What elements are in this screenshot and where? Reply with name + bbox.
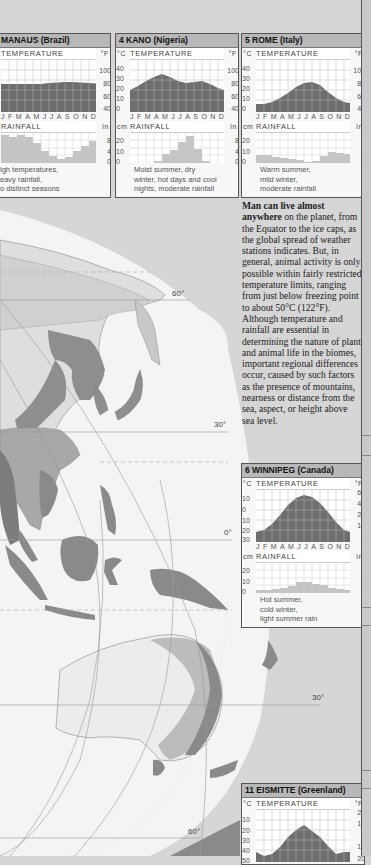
temperature-header: °C TEMPERATURE °F: [256, 798, 350, 810]
temperature-plot: 40 30 20 10 0 100 80 60 40: [256, 60, 350, 112]
rainfall-plot: 20 10 0 8 4 0: [256, 133, 350, 163]
temperature-plot: 40 30 20 10 0 100 80 60 40: [130, 60, 224, 112]
climate-chart-manaus: MANAUS (Brazil) TEMPERATURE °F 100 80 60…: [0, 33, 111, 198]
temperature-plot: 10 0 10 20 30 60 40 20 10 0: [256, 490, 350, 542]
latitude-label: 30°: [214, 420, 226, 429]
article-body: on the planet, from the Equator to the i…: [242, 211, 362, 425]
climate-chart-rome: 5 ROME (Italy) °C TEMPERATURE °F 40 30 2…: [241, 33, 365, 198]
latitude-label: 60°: [172, 289, 184, 298]
rainfall-plot: 20 10 0 8 4 0: [256, 563, 350, 593]
temperature-header: °C TEMPERATURE °F: [130, 48, 224, 60]
latitude-label: 60°: [188, 827, 200, 836]
chart-title: MANAUS (Brazil): [0, 34, 110, 48]
rainfall-header: cm RAINFALL in: [256, 551, 350, 563]
temperature-header: TEMPERATURE °F: [1, 48, 96, 60]
climate-chart-kano: 4 KANO (Nigeria) °C TEMPERATURE °F 40 30…: [115, 33, 239, 198]
page-edge: [361, 0, 371, 856]
chart-caption: igh temperatures, eavy rainfall, o disti…: [0, 163, 110, 197]
rainfall-plot: 20 10 0 8 4 0: [130, 133, 224, 163]
latitude-label: 0°: [224, 528, 232, 537]
rainfall-header: RAINFALL in: [1, 121, 96, 133]
chart-title: 5 ROME (Italy): [242, 34, 364, 48]
article-paragraph: Man can live almost anywhere on the plan…: [242, 200, 362, 426]
temperature-plot: 100 80 60 40: [1, 60, 96, 112]
climate-chart-eismitte: 11 EISMITTE (Greenland) °C TEMPERATURE °…: [241, 783, 365, 865]
temperature-header: °C TEMPERATURE °F: [256, 48, 350, 60]
chart-title: 11 EISMITTE (Greenland): [242, 784, 364, 798]
chart-caption: Hot summer, cold winter, light summer ra…: [242, 593, 364, 627]
month-axis: JFMAMJJASOND: [130, 112, 224, 121]
latitude-label: 30°: [312, 693, 324, 702]
rainfall-header: cm RAINFALL in: [256, 121, 350, 133]
chart-caption: Warm summer, mild winter, moderate rainf…: [242, 163, 364, 197]
rainfall-header: cm RAINFALL in: [130, 121, 224, 133]
rainfall-plot: 8 4 0: [1, 133, 96, 163]
month-axis: JFMAMJJASOND: [256, 542, 350, 551]
chart-title: 6 WINNIPEG (Canada): [242, 464, 364, 478]
climate-chart-winnipeg: 6 WINNIPEG (Canada) °C TEMPERATURE °F 10…: [241, 463, 365, 628]
chart-caption: Moist summer, dry winter, hot days and c…: [116, 163, 238, 197]
month-axis: JFMAMJJASOND: [1, 112, 96, 121]
chart-title: 4 KANO (Nigeria): [116, 34, 238, 48]
month-axis: JFMAMJJASOND: [256, 112, 350, 121]
temperature-plot: 10 20 30 40 50 20 10 0 10 20: [256, 810, 350, 862]
temperature-header: °C TEMPERATURE °F: [256, 478, 350, 490]
